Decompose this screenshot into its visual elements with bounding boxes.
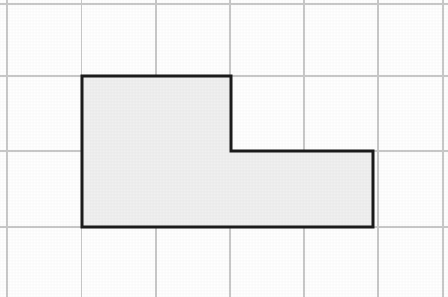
grid-figure-container bbox=[0, 0, 448, 297]
grid-vertical-lines bbox=[7, 0, 443, 297]
graph-paper-grid bbox=[0, 0, 448, 297]
grid-horizontal-lines bbox=[0, 4, 448, 227]
